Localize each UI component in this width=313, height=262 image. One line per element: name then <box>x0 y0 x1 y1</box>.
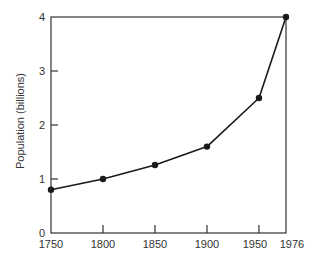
x-tick-label: 1976 <box>280 238 304 250</box>
data-point-marker <box>100 176 106 182</box>
y-axis-label: Population (billions) <box>14 73 26 169</box>
y-tick-label: 2 <box>39 119 45 131</box>
population-line <box>51 17 286 190</box>
y-tick-label: 3 <box>39 65 45 77</box>
y-axis-ticks: 01234 <box>39 11 58 239</box>
x-tick-label: 1950 <box>243 238 267 250</box>
plot-frame <box>51 17 286 233</box>
data-series <box>48 14 289 193</box>
y-tick-label: 4 <box>39 11 45 23</box>
x-tick-label: 1850 <box>143 238 167 250</box>
population-line-chart: 01234 175018001850190019501976 Populatio… <box>0 0 313 262</box>
x-tick-label: 1750 <box>39 238 63 250</box>
x-tick-label: 1800 <box>91 238 115 250</box>
data-point-marker <box>283 14 289 20</box>
x-axis-ticks: 175018001850190019501976 <box>39 225 304 250</box>
x-tick-label: 1900 <box>195 238 219 250</box>
data-point-marker <box>256 95 262 101</box>
data-point-marker <box>152 162 158 168</box>
data-point-marker <box>48 187 54 193</box>
plot-border <box>51 17 286 233</box>
data-point-marker <box>204 143 210 149</box>
y-tick-label: 1 <box>39 173 45 185</box>
